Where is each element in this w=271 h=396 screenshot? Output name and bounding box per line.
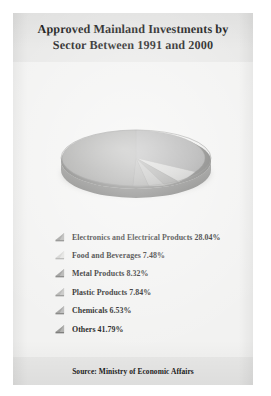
legend-item-food-and-beverages[interactable]: Food and Beverages 7.48% <box>54 246 244 264</box>
title-band: Approved Mainland Investments by Sector … <box>13 13 253 62</box>
legend-item-chemicals[interactable]: Chemicals 6.53% <box>54 302 244 320</box>
pie-slice-swatch-icon <box>54 287 65 298</box>
pie-slice-swatch-icon <box>54 250 65 261</box>
pie-slice-swatch-icon <box>54 268 65 279</box>
legend-item-label: Chemicals 6.53% <box>72 306 132 315</box>
legend-item-label: Food and Beverages 7.48% <box>72 251 165 260</box>
pie-slice-swatch-icon <box>54 324 65 335</box>
source-note: Source: Ministry of Economic Affairs <box>72 367 194 376</box>
legend-item-label: Metal Products 8.32% <box>72 269 148 278</box>
legend-item-others[interactable]: Others 41.79% <box>54 320 244 338</box>
legend-item-label: Electronics and Electrical Products 28.0… <box>72 233 220 242</box>
chart-area <box>13 62 253 222</box>
legend-item-metal-products[interactable]: Metal Products 8.32% <box>54 265 244 283</box>
legend-item-label: Plastic Products 7.84% <box>72 288 151 297</box>
page-root: Approved Mainland Investments by Sector … <box>0 0 271 396</box>
pie-chart <box>51 86 221 208</box>
source-band: Source: Ministry of Economic Affairs <box>13 357 253 385</box>
legend-item-label: Others 41.79% <box>72 325 124 334</box>
legend-item-electronics-and-electrical-products[interactable]: Electronics and Electrical Products 28.0… <box>54 228 244 246</box>
legend: Electronics and Electrical Products 28.0… <box>54 228 244 338</box>
page-title: Approved Mainland Investments by Sector … <box>13 22 253 53</box>
legend-item-plastic-products[interactable]: Plastic Products 7.84% <box>54 283 244 301</box>
pie-slice-swatch-icon <box>54 305 65 316</box>
pie-slice-swatch-icon <box>54 232 65 243</box>
pie-sheen <box>61 130 211 186</box>
chart-card: Approved Mainland Investments by Sector … <box>13 13 253 385</box>
